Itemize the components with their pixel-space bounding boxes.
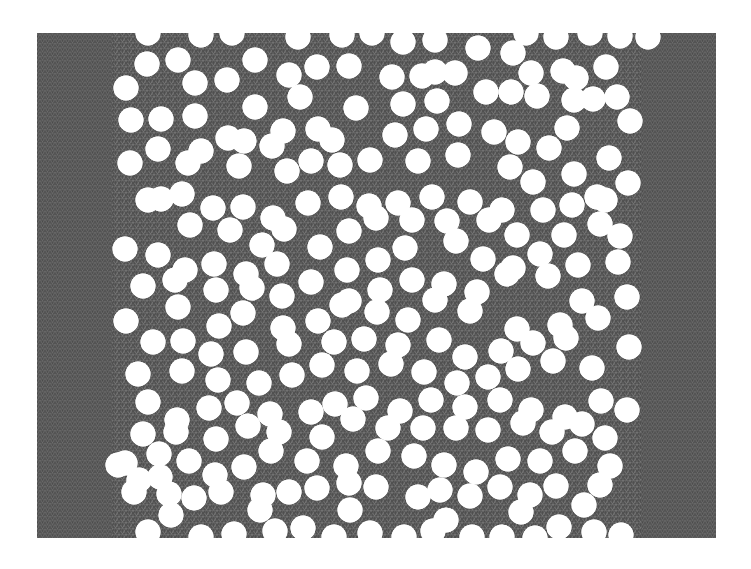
hole-circle xyxy=(562,162,587,187)
hole-circle xyxy=(146,137,171,162)
hole-circle xyxy=(393,236,418,261)
hole-circle xyxy=(615,285,640,310)
hole-circle xyxy=(496,447,521,472)
hole-circle xyxy=(337,471,362,496)
hole-circle xyxy=(310,353,335,378)
hole-circle xyxy=(544,25,569,50)
hole-circle xyxy=(360,21,385,46)
hole-circle xyxy=(159,503,184,528)
hole-circle xyxy=(380,65,405,90)
hole-circle xyxy=(202,252,227,277)
hole-circle xyxy=(338,498,363,523)
hole-circle xyxy=(578,21,603,46)
hole-circle xyxy=(265,252,290,277)
hole-circle xyxy=(464,460,489,485)
hole-circle xyxy=(114,76,139,101)
hole-circle xyxy=(609,523,634,548)
hole-circle xyxy=(391,30,416,55)
hole-circle xyxy=(458,299,483,324)
hole-circle xyxy=(597,146,622,171)
hole-circle xyxy=(135,52,160,77)
hole-circle xyxy=(222,522,247,547)
hole-circle xyxy=(506,357,531,382)
hole-circle xyxy=(243,48,268,73)
hole-circle xyxy=(476,418,501,443)
hole-circle xyxy=(379,352,404,377)
hole-circle xyxy=(113,237,138,262)
hole-circle xyxy=(434,508,459,533)
hole-circle xyxy=(170,359,195,384)
hole-circle xyxy=(366,439,391,464)
hole-circle xyxy=(511,411,536,436)
hole-circle xyxy=(501,41,526,66)
hole-circle xyxy=(341,407,366,432)
hole-circle xyxy=(322,525,347,550)
hole-circle xyxy=(589,389,614,414)
hole-circle xyxy=(215,68,240,93)
hole-circle xyxy=(320,128,345,153)
hole-circle xyxy=(277,332,302,357)
hole-circle xyxy=(299,270,324,295)
hole-circle xyxy=(189,139,214,164)
hole-circle xyxy=(400,208,425,233)
hole-circle xyxy=(345,359,370,384)
hole-circle xyxy=(498,155,523,180)
hole-circle xyxy=(608,224,633,249)
hole-circle xyxy=(240,276,265,301)
hole-circle xyxy=(189,23,214,48)
hole-circle xyxy=(260,134,285,159)
hole-circle xyxy=(209,480,234,505)
hole-circle xyxy=(263,519,288,544)
hole-circle xyxy=(406,485,431,510)
hole-circle xyxy=(402,444,427,469)
hole-circle xyxy=(182,486,207,511)
hole-circle xyxy=(305,55,330,80)
hole-circle xyxy=(528,242,553,267)
hole-circle xyxy=(428,478,453,503)
hole-circle xyxy=(166,295,191,320)
hole-circle xyxy=(197,396,222,421)
hole-circle xyxy=(636,25,661,50)
hole-circle xyxy=(488,475,513,500)
hole-circle xyxy=(204,278,229,303)
hole-circle xyxy=(146,243,171,268)
hole-circle xyxy=(248,498,273,523)
hole-circle xyxy=(136,21,161,46)
hole-circle xyxy=(471,247,496,272)
hole-circle xyxy=(554,326,579,351)
hole-circle xyxy=(509,500,534,525)
hole-circle xyxy=(243,95,268,120)
hole-circle xyxy=(423,288,448,313)
hole-circle xyxy=(453,345,478,370)
hole-circle xyxy=(594,55,619,80)
hole-circle xyxy=(525,84,550,109)
hole-circle xyxy=(286,25,311,50)
hole-circle xyxy=(234,340,259,365)
hole-circle xyxy=(391,92,416,117)
hole-circle xyxy=(490,525,515,550)
hole-circle xyxy=(477,208,502,233)
hole-circle xyxy=(458,190,483,215)
hole-circle xyxy=(201,196,226,221)
mesh-refined-right xyxy=(641,33,716,538)
hole-circle xyxy=(563,439,588,464)
hole-circle xyxy=(164,420,189,445)
hole-circle xyxy=(299,400,324,425)
hole-circle xyxy=(308,235,333,260)
hole-circle xyxy=(270,284,295,309)
hole-circle xyxy=(605,85,630,110)
hole-circle xyxy=(330,293,355,318)
hole-circle xyxy=(358,521,383,546)
hole-circle xyxy=(337,219,362,244)
hole-circle xyxy=(126,362,151,387)
hole-circle xyxy=(305,476,330,501)
hole-circle xyxy=(581,87,606,112)
hole-circle xyxy=(118,151,143,176)
hole-circle xyxy=(231,195,256,220)
hole-circle xyxy=(528,449,553,474)
hole-circle xyxy=(521,170,546,195)
hole-circle xyxy=(149,107,174,132)
hole-circle xyxy=(499,80,524,105)
hole-circle xyxy=(443,61,468,86)
hole-circle xyxy=(536,264,561,289)
